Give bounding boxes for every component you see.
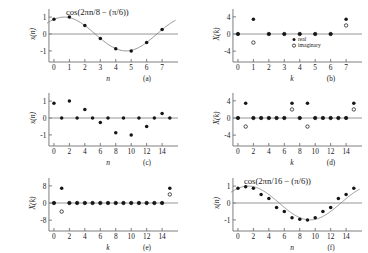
x-tick-label: 12 — [327, 232, 335, 241]
y-axis-label: X(k) — [212, 111, 221, 126]
data-point-x(n) — [352, 187, 356, 191]
y-tick-label: 0 — [227, 199, 231, 208]
data-point-real — [352, 101, 356, 105]
data-point-x(n) — [275, 206, 279, 210]
y-axis-label: x(n) — [28, 27, 37, 41]
y-axis-label: x(n) — [28, 111, 37, 125]
x-tick-label: 12 — [143, 147, 151, 156]
data-point-x(n) — [259, 193, 263, 197]
panel-caption: (e) — [143, 244, 152, 252]
x-tick-label: 4 — [298, 63, 302, 72]
data-point-x(n) — [91, 116, 95, 120]
x-tick-label: 8 — [114, 232, 118, 241]
data-point-x(n) — [168, 116, 172, 120]
data-point-x(n) — [283, 210, 287, 214]
data-point-x(n) — [298, 218, 302, 222]
y-tick-label: 1 — [43, 13, 47, 22]
data-point-x(n) — [114, 131, 118, 135]
legend-marker-real — [293, 38, 296, 41]
x-tick-label: 7 — [344, 63, 348, 72]
data-point-x(n) — [99, 37, 103, 41]
data-point-imaginary — [352, 108, 355, 111]
x-tick-label: 2 — [68, 232, 72, 241]
x-tick-label: 2 — [83, 63, 87, 72]
y-tick-label: -1 — [40, 47, 46, 56]
plot-panel-c: 10-102468101214x(n)n(c) — [0, 84, 184, 168]
data-point-x(n) — [290, 216, 294, 220]
data-point-x(n) — [52, 18, 56, 22]
panel-caption: (a) — [143, 75, 152, 83]
x-tick-label: 0 — [236, 232, 240, 241]
data-point-x(n) — [114, 47, 118, 51]
formula-annotation: cos(2πn/16 − (π/6)) — [244, 176, 311, 186]
y-axis-label: x(n) — [212, 196, 221, 210]
data-point-x(n) — [153, 116, 157, 120]
y-tick-label: -1 — [224, 216, 230, 225]
x-tick-label: 2 — [252, 147, 256, 156]
x-tick-label: 0 — [52, 147, 56, 156]
x-tick-label: 4 — [114, 63, 118, 72]
x-tick-label: 4 — [267, 232, 271, 241]
y-tick-label: 4 — [227, 97, 231, 106]
data-point-x(n) — [313, 216, 317, 220]
plot-panel-e: 80-802468101214X(k)k(e) — [0, 169, 184, 253]
x-tick-label: 8 — [114, 147, 118, 156]
x-tick-label: 2 — [267, 63, 271, 72]
x-tick-label: 0 — [236, 63, 240, 72]
data-point-x(n) — [83, 24, 87, 28]
data-point-x(n) — [344, 193, 348, 197]
data-point-x(n) — [52, 102, 56, 106]
data-point-imaginary — [306, 125, 309, 128]
data-point-imaginary — [344, 24, 347, 27]
plot-svg-f: 10-102468101214x(n)n(f)cos(2πn/16 − (π/6… — [184, 169, 368, 253]
data-point-x(n) — [306, 218, 310, 222]
plot-panel-b: 40-401234567X(k)k(b)realimaginary — [184, 0, 368, 84]
data-point-x(n) — [83, 108, 87, 112]
x-tick-label: 0 — [52, 232, 56, 241]
x-tick-label: 4 — [83, 232, 87, 241]
y-tick-label: -1 — [40, 131, 46, 140]
data-point-x(n) — [160, 112, 164, 116]
data-point-x(n) — [99, 121, 103, 125]
x-tick-label: 14 — [158, 147, 166, 156]
data-point-x(n) — [129, 49, 133, 53]
y-tick-label: -4 — [224, 131, 230, 140]
x-tick-label: 6 — [98, 147, 102, 156]
data-point-x(n) — [321, 210, 325, 214]
x-tick-label: 0 — [52, 63, 56, 72]
x-axis-label: k — [106, 243, 110, 252]
x-tick-label: 6 — [98, 232, 102, 241]
x-axis-label: n — [106, 158, 110, 167]
data-point-real — [252, 17, 256, 21]
y-axis-label: X(k) — [212, 27, 221, 42]
x-tick-label: 14 — [342, 232, 350, 241]
data-point-x(n) — [122, 116, 126, 120]
y-axis-label: X(k) — [28, 196, 37, 211]
x-tick-label: 5 — [129, 63, 133, 72]
x-tick-label: 1 — [252, 63, 256, 72]
y-tick-label: 0 — [43, 114, 47, 123]
x-tick-label: 10 — [312, 232, 320, 241]
y-tick-label: 8 — [43, 182, 47, 191]
legend-marker-imaginary — [292, 44, 295, 47]
x-tick-label: 4 — [83, 147, 87, 156]
plot-panel-f: 10-102468101214x(n)n(f)cos(2πn/16 − (π/6… — [184, 169, 368, 253]
data-point-x(n) — [75, 116, 79, 120]
x-tick-label: 12 — [143, 232, 151, 241]
x-tick-label: 2 — [68, 147, 72, 156]
x-axis-label: n — [290, 243, 294, 252]
y-tick-label: -8 — [40, 216, 46, 225]
x-axis-label: n — [106, 74, 110, 83]
x-tick-label: 3 — [98, 63, 102, 72]
data-point-real — [168, 186, 172, 190]
x-tick-label: 14 — [342, 147, 350, 156]
x-axis-label: k — [290, 158, 294, 167]
x-tick-label: 2 — [252, 232, 256, 241]
panel-caption: (d) — [327, 159, 336, 167]
panel-caption: (c) — [143, 159, 152, 167]
y-tick-label: 4 — [227, 13, 231, 22]
data-point-x(n) — [329, 206, 333, 210]
y-tick-label: 1 — [227, 182, 231, 191]
y-tick-label: 1 — [43, 97, 47, 106]
y-tick-label: 0 — [43, 30, 47, 39]
